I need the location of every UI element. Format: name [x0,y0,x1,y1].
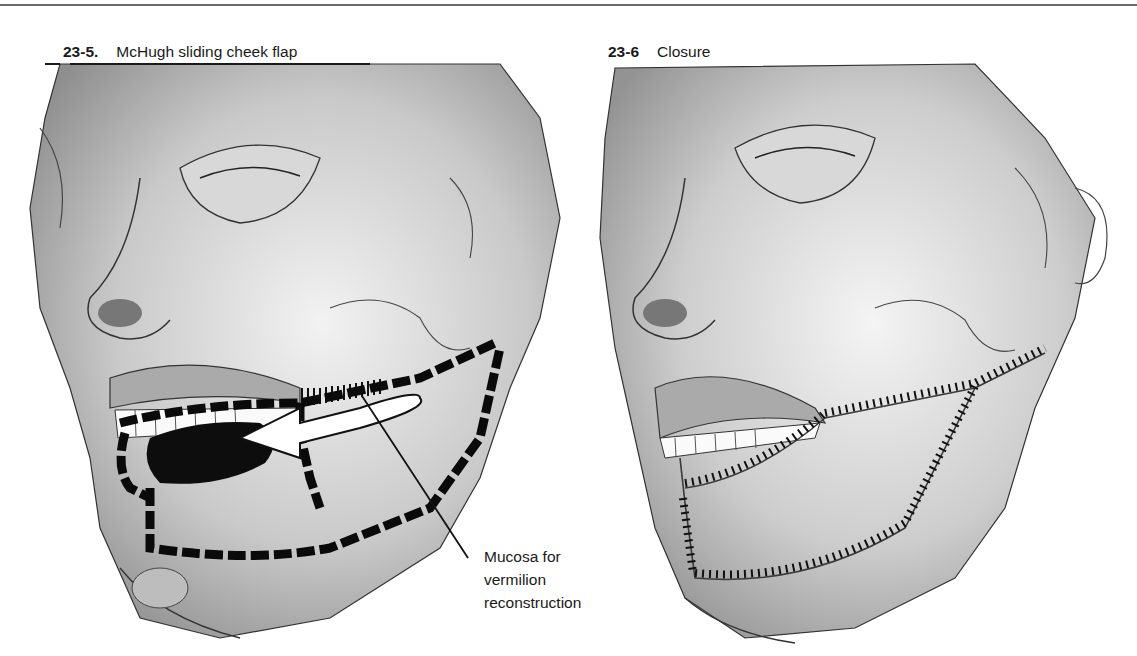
page-top-rule [0,4,1137,6]
illustration-closure [575,58,1137,656]
annotation-mucosa-label: Mucosa for vermilion reconstruction [484,545,581,614]
annotation-line: vermilion [484,568,581,591]
annotation-line: Mucosa for [484,545,581,568]
annotation-line: reconstruction [484,591,581,614]
